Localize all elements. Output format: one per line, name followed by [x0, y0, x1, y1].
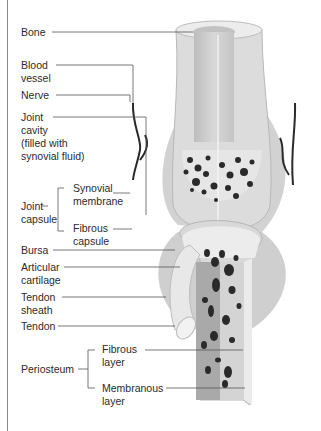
- label-joint-capsule: Joint capsule: [21, 200, 57, 226]
- label-tendon-sheath: Tendon sheath: [21, 291, 55, 317]
- label-fibrous-capsule: Fibrous capsule: [73, 222, 109, 248]
- label-articular-cartilage: Articular cartilage: [21, 261, 61, 287]
- label-periosteum: Periosteum: [21, 363, 74, 376]
- label-membranous-layer: Membranous layer: [102, 382, 163, 408]
- label-synovial-membrane: Synovial membrane: [73, 182, 123, 208]
- label-bone: Bone: [21, 26, 46, 39]
- label-joint-cavity: Joint cavity (filled with synovial fluid…: [21, 111, 85, 163]
- label-blood-vessel: Blood vessel: [21, 59, 51, 85]
- label-tendon: Tendon: [21, 320, 55, 333]
- label-nerve: Nerve: [21, 89, 49, 102]
- label-bursa: Bursa: [21, 244, 48, 257]
- upper-bone: [172, 21, 271, 231]
- vessels-left: [133, 103, 147, 180]
- label-fibrous-layer: Fibrous layer: [102, 343, 137, 369]
